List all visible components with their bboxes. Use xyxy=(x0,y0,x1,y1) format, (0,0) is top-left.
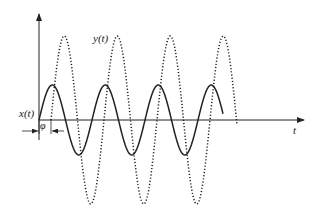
phase-label: φ xyxy=(40,120,46,131)
y-signal-label: y(t) xyxy=(92,32,109,45)
phase-shift-diagram: x(t) y(t) t φ xyxy=(0,0,319,224)
time-axis-label: t xyxy=(293,124,297,136)
x-signal-label: x(t) xyxy=(18,107,35,120)
